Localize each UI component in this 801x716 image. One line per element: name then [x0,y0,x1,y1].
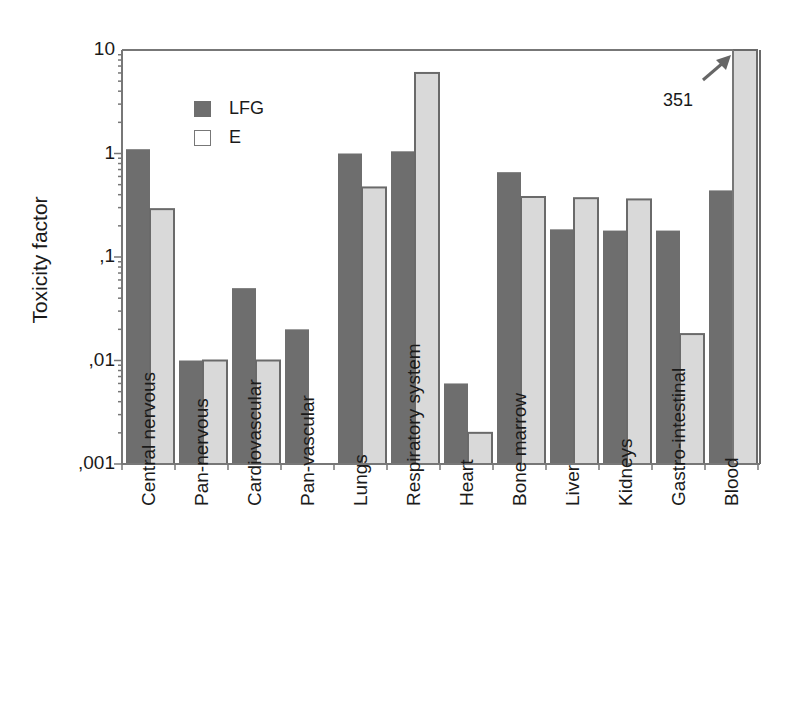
x-tick-label: Pan-nervous [191,478,215,708]
bar-lfg-8 [550,229,574,464]
x-tick-label-text: Bone marrow [509,482,531,506]
x-tick-label-text: Blood [721,482,743,506]
legend-swatch-lfg [194,101,211,117]
x-tick-label-text: Central nervous [138,482,160,506]
x-tick-label-text: Gastro-intestinal [668,482,690,506]
x-tick-label: Kidneys [615,478,639,708]
y-tick-label: ,001 [78,452,115,474]
y-tick-label: 1 [104,142,115,164]
x-tick-label-text: Respiratory system [403,482,425,506]
bar-lfg-11 [709,190,733,464]
x-tick-label: Heart [456,478,480,708]
y-axis-title-text: Toxicity factor [28,160,52,360]
legend-item-lfg: LFG [194,94,264,123]
bar-e-4 [362,187,386,464]
x-tick-label: Cardiovascular [244,478,268,708]
x-tick-label: Lungs [350,478,374,708]
y-tick-label: ,1 [99,245,115,267]
x-tick-label: Blood [721,478,745,708]
y-tick-label: 10 [94,38,115,60]
y-axis-title: Toxicity factor [8,260,28,280]
bar-lfg-4 [338,154,362,465]
bar-lfg-9 [603,231,627,464]
x-tick-label-text: Pan-nervous [191,482,213,506]
bar-e-8 [574,198,598,464]
x-tick-label: Respiratory system [403,478,427,708]
x-tick-label: Pan-vascular [297,478,321,708]
toxicity-bar-chart: Toxicity factor ,001,01,1110 Central ner… [0,0,801,716]
x-tick-label-text: Lungs [350,482,372,506]
legend-swatch-e [194,130,211,146]
x-tick-label: Gastro-intestinal [668,478,692,708]
x-tick-label: Bone marrow [509,478,533,708]
x-tick-label-text: Kidneys [615,482,637,506]
x-tick-label-text: Heart [456,482,478,506]
legend-label-e: E [229,127,241,148]
x-tick-label: Central nervous [138,478,162,708]
offscale-annotation: 351 [663,90,693,111]
x-tick-label-text: Liver [562,482,584,506]
x-tick-label-text: Pan-vascular [297,482,319,506]
bar-e-11 [733,50,757,464]
y-tick-label: ,01 [89,349,115,371]
legend: LFG E [194,94,264,152]
bar-lfg-6 [444,383,468,464]
legend-item-e: E [194,123,264,152]
bar-e-9 [627,199,651,464]
x-tick-label-text: Cardiovascular [244,482,266,506]
legend-label-lfg: LFG [229,98,264,119]
x-tick-label: Liver [562,478,586,708]
